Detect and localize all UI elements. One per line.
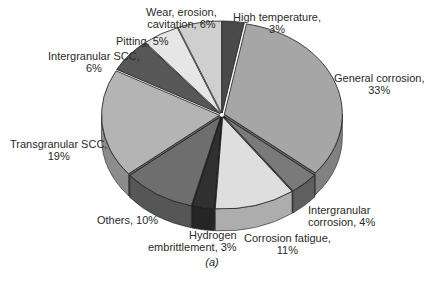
label-line: High temperature, <box>233 11 321 23</box>
label-transgranular-scc: Transgranular SCC, 19% <box>10 138 107 162</box>
label-general-corrosion: General corrosion, 33% <box>334 72 425 96</box>
slice-side <box>192 206 214 231</box>
label-line: Hydrogen <box>148 229 237 241</box>
label-line: Transgranular SCC, <box>10 138 107 150</box>
label-line: Pitting, 5% <box>116 35 169 47</box>
label-line: 19% <box>10 150 107 162</box>
label-line: cavitation, 6% <box>146 18 217 30</box>
label-pitting: Pitting, 5% <box>116 35 169 47</box>
label-line: 33% <box>334 84 425 96</box>
label-wear-erosion-cavitation: Wear, erosion, cavitation, 6% <box>146 6 217 30</box>
label-high-temperature: High temperature, 3% <box>233 11 321 35</box>
label-line: General corrosion, <box>334 72 425 84</box>
label-line: Corrosion fatigue, <box>244 232 331 244</box>
label-intergranular-scc: Intergranular SCC, 6% <box>48 50 140 74</box>
label-intergranular-corrosion: Intergranular corrosion, 4% <box>308 204 375 228</box>
label-hydrogen-embrittlement: Hydrogen embrittlement, 3% <box>148 229 237 253</box>
label-line: Wear, erosion, <box>146 6 217 18</box>
figure-caption: (a) <box>205 256 218 268</box>
label-line: embrittlement, 3% <box>148 241 237 253</box>
label-corrosion-fatigue: Corrosion fatigue, 11% <box>244 232 331 256</box>
label-others: Others, 10% <box>97 214 158 226</box>
label-line: Intergranular SCC, <box>48 50 140 62</box>
label-line: corrosion, 4% <box>308 216 375 228</box>
label-line: 6% <box>48 62 140 74</box>
label-line: Intergranular <box>308 204 375 216</box>
label-line: 3% <box>233 23 321 35</box>
label-line: Others, 10% <box>97 214 158 226</box>
label-line: 11% <box>244 244 331 256</box>
